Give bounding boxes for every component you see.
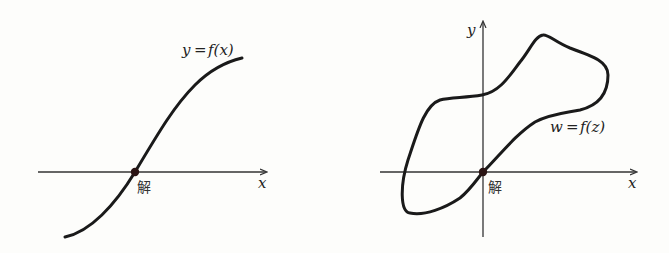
left-curve-label-lhs: y [181, 41, 191, 59]
right-curve-label-rhs: f(z) [579, 118, 605, 136]
right-curve-label-lhs: w [550, 118, 563, 136]
right-y-axis-label: y [466, 21, 476, 39]
labels-layer: y = f(x) x 解 w = f(z) x y 解 [0, 0, 669, 253]
left-x-axis-label: x [258, 174, 267, 192]
right-x-axis-label: x [628, 174, 637, 192]
left-curve-label-eq: = [194, 41, 207, 59]
right-root-label: 解 [488, 179, 502, 195]
right-curve-label-eq: = [566, 118, 579, 136]
left-root-label: 解 [137, 179, 151, 195]
left-curve-label-rhs: f(x) [207, 41, 234, 59]
